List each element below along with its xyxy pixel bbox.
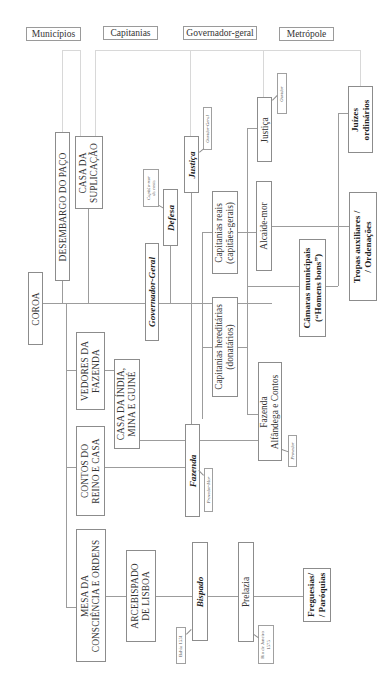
line-1: Câmaras municipais	[302, 248, 313, 329]
note-ouvidor-geral-label: Ouvidor-Geral	[205, 115, 210, 142]
header-municipios: Municípios	[26, 27, 81, 41]
line-2: / Ordenações	[363, 210, 374, 283]
node-freguesias: Freguesias/ / Paróquias	[303, 568, 331, 622]
header-metropole: Metrópole	[279, 27, 334, 41]
line-1: Capitanias hereditárias	[214, 304, 225, 390]
node-casa-india-label: CASA DA ÍNDIA, MINA E GUINÉ	[116, 368, 138, 441]
note-pointer	[186, 629, 192, 635]
line-1: CONTOS DO	[80, 438, 91, 503]
node-juizes-label: Juízes ordinários	[350, 99, 371, 140]
note-ouvidor-geral: Ouvidor-Geral	[203, 107, 212, 150]
line-2: (capitães-gerais)	[225, 202, 236, 264]
node-capitanias-hereditarias-label: Capitanias hereditárias (donatários)	[214, 304, 236, 390]
header-municipios-label: Municípios	[32, 29, 75, 39]
note-capitao-mor: Capitão-mor da costa	[143, 169, 159, 207]
node-camaras-label: Câmaras municipais (“Homens bons”)	[302, 248, 323, 329]
note-capitao-mor-label: Capitão-mor da costa	[146, 176, 157, 200]
connector	[62, 280, 63, 303]
node-governador-geral-label: Governador-Geral	[147, 257, 158, 327]
guide-line	[95, 50, 96, 136]
guide-line	[360, 50, 361, 86]
line-2: (donatários)	[225, 304, 236, 390]
node-casa-da-suplicacao: CASA DA SUPLICAÇÃO	[75, 136, 103, 209]
note-ouvidor-label: Ouvidor	[279, 86, 284, 101]
node-casa-suplicacao-label: CASA DA SUPLICAÇÃO	[78, 143, 100, 203]
connector	[247, 414, 258, 415]
node-fazenda-gg-label: Fazenda	[187, 454, 198, 487]
connector	[202, 232, 203, 419]
connector	[170, 245, 171, 303]
line-1: Fazenda	[259, 374, 270, 448]
note-bahia: Bahia 1551	[176, 627, 186, 664]
node-freguesias-label: Freguesias/ / Paróquias	[306, 573, 327, 618]
line-1: Tropas auxiliares /	[352, 210, 363, 283]
node-desembargo-label: DESEMBARGO DO PAÇO	[57, 152, 68, 261]
line-1: Rio de Janeiro	[260, 631, 266, 659]
guide-line	[62, 50, 63, 132]
line-2: FAZENDA	[91, 341, 102, 401]
connector	[253, 596, 303, 597]
node-defesa-label: Defesa	[165, 204, 176, 230]
line-2: / Paróquias	[317, 573, 328, 618]
connector	[338, 113, 348, 114]
node-justica-gg: Justiça	[184, 136, 199, 193]
connector	[105, 596, 126, 597]
node-fazenda-capitania-label: Fazenda Alfândega e Contos	[259, 374, 281, 448]
connector	[88, 208, 89, 303]
node-fazenda-capitania: Fazenda Alfândega e Contos	[258, 362, 282, 461]
note-provedor-mor-label: Provedor-Mor	[206, 477, 211, 504]
connector	[338, 113, 339, 286]
connector	[104, 467, 185, 468]
note-bahia-label: Bahia 1551	[178, 635, 184, 657]
note-provedor: Provedor	[288, 435, 297, 467]
node-coroa-label: COROA	[30, 292, 41, 325]
node-governador-geral: Governador-Geral	[145, 243, 159, 341]
note-rio-de-janeiro: Rio de Janeiro 1575	[258, 625, 274, 664]
guide-line	[62, 50, 81, 51]
node-bispado: Bispado	[192, 542, 208, 641]
node-arcebispado-label: ARCEBISPADO DE LISBOA	[130, 563, 152, 628]
connector	[202, 232, 212, 233]
header-governador-geral-label: Governador-geral	[186, 28, 253, 38]
line-2: REINO E CASA	[91, 438, 102, 503]
connector	[66, 607, 76, 608]
node-capitanias-hereditarias: Capitanias hereditárias (donatários)	[212, 297, 238, 397]
node-vedores-label: VEDORES DA FAZENDA	[80, 341, 102, 401]
node-defesa: Defesa	[163, 189, 178, 246]
node-alcaide-mor: Alcaide-mor	[256, 181, 272, 271]
node-justica-gg-label: Justiça	[186, 151, 197, 178]
node-tropas-auxiliares: Tropas auxiliares / / Ordenações	[349, 192, 377, 301]
node-prelazia-label: Prelazia	[241, 577, 252, 607]
connector	[104, 370, 114, 371]
note-provedor-mor: Provedor-Mor	[204, 468, 213, 512]
connector	[199, 440, 258, 441]
line-2: CONSCIÊNCIA E ORDENS	[91, 539, 102, 651]
line-1: Capitanias reais	[214, 202, 225, 264]
connector	[247, 286, 299, 287]
guide-line	[80, 50, 81, 136]
line-1: Juízes	[350, 99, 361, 140]
node-alcaide-mor-label: Alcaide-mor	[259, 202, 270, 249]
node-vedores-da-fazenda: VEDORES DA FAZENDA	[76, 332, 105, 410]
connector	[325, 286, 338, 287]
line-1: VEDORES DA	[80, 341, 91, 401]
guide-line	[263, 50, 264, 97]
node-justica-capitania-label: Justiça	[259, 117, 270, 143]
connector	[207, 596, 238, 597]
guide-line	[95, 50, 360, 51]
node-capitanias-reais-label: Capitanias reais (capitães-gerais)	[214, 202, 236, 264]
connector	[66, 467, 76, 468]
header-governador-geral: Governador-geral	[183, 26, 257, 40]
node-contos-label: CONTOS DO REINO E CASA	[80, 438, 102, 503]
connector	[155, 596, 192, 597]
line-1: ARCEBISPADO	[130, 563, 141, 628]
node-desembargo-do-paco: DESEMBARGO DO PAÇO	[55, 132, 70, 281]
connector	[191, 192, 192, 424]
connector	[66, 370, 76, 371]
node-juizes-ordinarios: Juízes ordinários	[348, 86, 373, 153]
node-mesa-da-consciencia: MESA DA CONSCIÊNCIA E ORDENS	[76, 529, 106, 662]
header-capitanias-label: Capitanias	[110, 28, 150, 38]
node-justica-capitania: Justiça	[257, 97, 272, 162]
node-arcebispado: ARCEBISPADO DE LISBOA	[126, 550, 156, 642]
line-2: DE LISBOA	[141, 563, 152, 628]
